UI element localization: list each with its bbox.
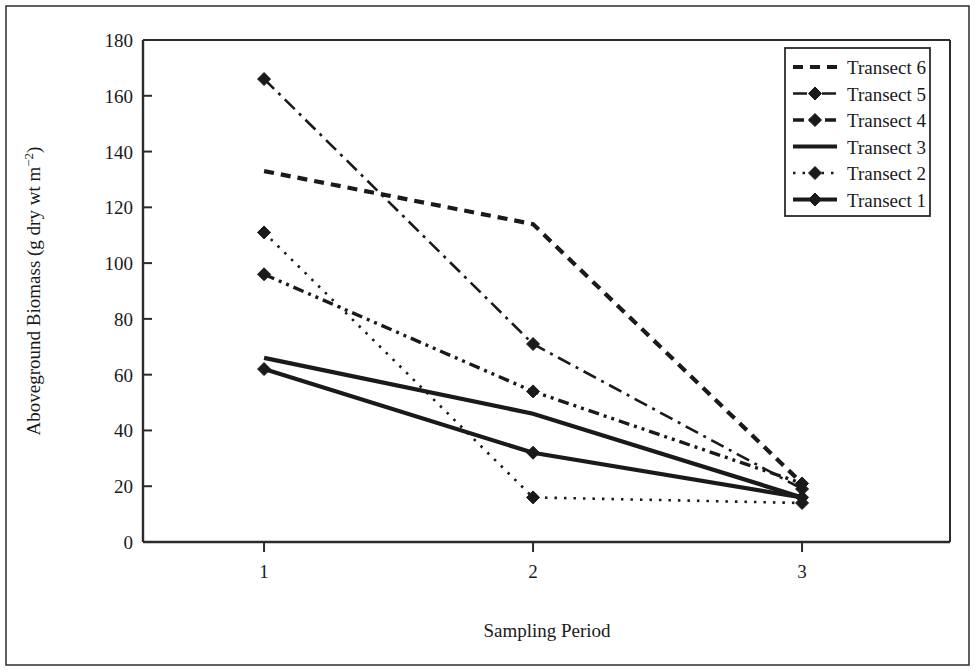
- y-axis-title: Aboveground Biomass (g dry wt m−2): [21, 147, 45, 436]
- data-point-marker: [258, 363, 271, 376]
- legend-label: Transect 5: [847, 84, 926, 105]
- series-transect-2: [258, 226, 809, 510]
- y-tick-label: 60: [114, 365, 133, 386]
- series-transect-3: [264, 358, 802, 498]
- chart-figure: 020406080100120140160180 123 Aboveground…: [0, 0, 975, 671]
- legend-label: Transect 4: [847, 110, 926, 131]
- x-axis-ticks: [264, 542, 802, 552]
- y-tick-label: 180: [105, 30, 134, 51]
- y-axis-title-main: Aboveground Biomass (g dry wt m: [23, 167, 45, 436]
- y-axis-title-superscript: −2: [21, 153, 36, 167]
- series-line: [264, 79, 802, 489]
- chart-legend: Transect 6Transect 5Transect 4Transect 3…: [785, 48, 930, 216]
- y-axis-title-tail: ): [23, 147, 45, 153]
- series-line: [264, 232, 802, 503]
- series-line: [264, 171, 802, 483]
- data-point-marker: [258, 268, 271, 281]
- y-axis-tick-labels: 020406080100120140160180: [105, 30, 134, 553]
- y-tick-label: 140: [105, 142, 134, 163]
- series-line: [264, 358, 802, 498]
- data-point-marker: [527, 385, 540, 398]
- y-tick-label: 120: [105, 197, 134, 218]
- series-transect-6: [264, 171, 802, 483]
- series-transect-1: [258, 363, 809, 504]
- y-tick-label: 160: [105, 86, 134, 107]
- y-axis-title-text: Aboveground Biomass (g dry wt m−2): [21, 147, 45, 436]
- y-tick-label: 100: [105, 253, 134, 274]
- data-point-marker: [527, 337, 540, 350]
- y-tick-label: 80: [114, 309, 133, 330]
- legend-label: Transect 2: [847, 163, 926, 184]
- data-point-marker: [258, 226, 271, 239]
- legend-label: Transect 3: [847, 137, 926, 158]
- biomass-line-chart: 020406080100120140160180 123 Aboveground…: [0, 0, 975, 671]
- y-axis-ticks: [143, 40, 152, 542]
- x-axis-tick-labels: 123: [259, 561, 807, 582]
- legend-label: Transect 6: [847, 57, 926, 78]
- legend-label: Transect 1: [847, 190, 926, 211]
- x-tick-label: 2: [528, 561, 538, 582]
- data-series-group: [258, 73, 809, 510]
- x-tick-label: 3: [797, 561, 807, 582]
- series-transect-5: [258, 73, 809, 496]
- data-point-marker: [527, 446, 540, 459]
- y-tick-label: 0: [124, 532, 134, 553]
- x-axis-title: Sampling Period: [483, 620, 611, 641]
- y-tick-label: 20: [114, 476, 133, 497]
- x-tick-label: 1: [259, 561, 269, 582]
- y-tick-label: 40: [114, 420, 133, 441]
